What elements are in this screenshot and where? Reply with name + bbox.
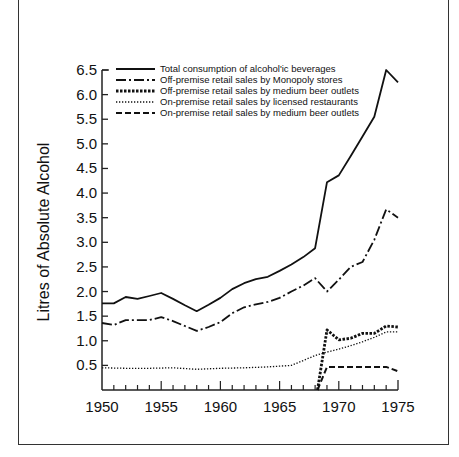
x-tick-label: 1950 (85, 398, 118, 415)
legend-label: Off-premise retail sales by Monopoly sto… (160, 74, 343, 85)
y-tick-label: 1.0 (76, 332, 97, 349)
y-tick-label: 6.0 (76, 86, 97, 103)
y-axis-ticks: 0.51.01.52.02.53.03.54.04.55.05.56.06.5 (76, 61, 109, 373)
legend-label: On-premise retail sales by medium beer o… (160, 107, 359, 118)
y-tick-label: 2.0 (76, 283, 97, 300)
legend-item: On-premise retail sales by medium beer o… (116, 107, 359, 118)
y-axis-label: Litres of Absolute Alcohol (35, 143, 52, 322)
legend-item: Off-premise retail sales by medium beer … (116, 85, 359, 96)
y-tick-label: 3.0 (76, 233, 97, 250)
legend-item: Off-premise retail sales by Monopoly sto… (116, 74, 343, 85)
y-tick-label: 6.5 (76, 61, 97, 78)
y-tick-label: 0.5 (76, 356, 97, 373)
y-tick-label: 5.0 (76, 135, 97, 152)
x-axis-ticks: 195019551960196519701975 (85, 381, 414, 415)
x-tick-label: 1955 (145, 398, 178, 415)
legend: Total consumption of alcohol'ic beverage… (116, 63, 359, 118)
y-tick-label: 4.0 (76, 184, 97, 201)
line-chart: 0.51.01.52.02.53.03.54.04.55.05.56.06.5 … (0, 0, 459, 457)
legend-label: Total consumption of alcohol'ic beverage… (160, 63, 336, 74)
legend-label: Off-premise retail sales by medium beer … (160, 85, 359, 96)
series-line-thick-dotted (318, 326, 399, 390)
x-tick-label: 1960 (204, 398, 237, 415)
legend-item: On-premise retail sales by licensed rest… (116, 96, 358, 107)
y-tick-label: 4.5 (76, 159, 97, 176)
x-tick-label: 1965 (263, 398, 296, 415)
y-tick-label: 5.5 (76, 110, 97, 127)
y-tick-label: 2.5 (76, 258, 97, 275)
series-line-dotted (102, 332, 398, 369)
series-line-dashdot (102, 209, 398, 331)
x-tick-label: 1970 (322, 398, 355, 415)
axes (102, 70, 398, 390)
legend-label: On-premise retail sales by licensed rest… (160, 96, 358, 107)
y-tick-label: 1.5 (76, 307, 97, 324)
legend-item: Total consumption of alcohol'ic beverage… (116, 63, 336, 74)
x-tick-label: 1975 (381, 398, 414, 415)
series-lines (102, 70, 398, 390)
y-tick-label: 3.5 (76, 209, 97, 226)
